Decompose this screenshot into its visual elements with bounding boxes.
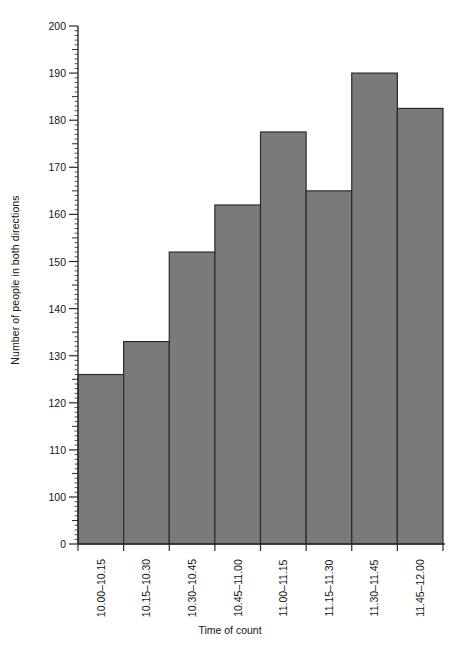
bar [397, 108, 443, 544]
x-axis-tick-label: 11.15–11.30 [322, 548, 336, 626]
x-axis-tick-label: 11.30–11.45 [368, 548, 382, 626]
bar-chart: Number of people in both directions 0100… [0, 0, 460, 647]
x-axis-tick-label: 10.15–10.30 [139, 548, 153, 626]
bar [78, 375, 124, 544]
x-axis-tick-label-text: 10.30–10.45 [186, 559, 198, 617]
x-axis-title-label: Time of count [198, 624, 261, 636]
x-axis-tick-label: 11.45–12.00 [413, 548, 427, 626]
x-axis-tick-label: 11.00–11.15 [276, 548, 290, 626]
y-axis-ticks [69, 26, 78, 544]
bar-series [78, 73, 443, 544]
x-axis-tick-label-text: 11.15–11.30 [323, 560, 335, 617]
bar [215, 205, 261, 544]
bar [352, 73, 398, 544]
x-axis-tick-label-text: 10.00–10.15 [95, 559, 107, 617]
x-axis-title: Time of count [0, 624, 460, 636]
x-axis-tick-label-text: 11.45–12.00 [414, 559, 426, 617]
x-axis-tick-label: 10.45–11.00 [231, 548, 245, 626]
bar [169, 252, 215, 544]
x-axis-tick-labels: 10.00–10.1510.15–10.3010.30–10.4510.45–1… [0, 548, 460, 626]
bar [306, 191, 352, 544]
x-axis-tick-label: 10.30–10.45 [185, 548, 199, 626]
x-axis-tick-label-text: 11.00–11.15 [277, 560, 289, 617]
x-axis-tick-label-text: 10.15–10.30 [140, 559, 152, 617]
x-axis-tick-label: 10.00–10.15 [94, 548, 108, 626]
x-axis-tick-label-text: 11.30–11.45 [369, 560, 381, 617]
bar [124, 342, 170, 544]
bar [261, 132, 307, 544]
x-axis-tick-label-text: 10.45–11.00 [232, 559, 244, 617]
